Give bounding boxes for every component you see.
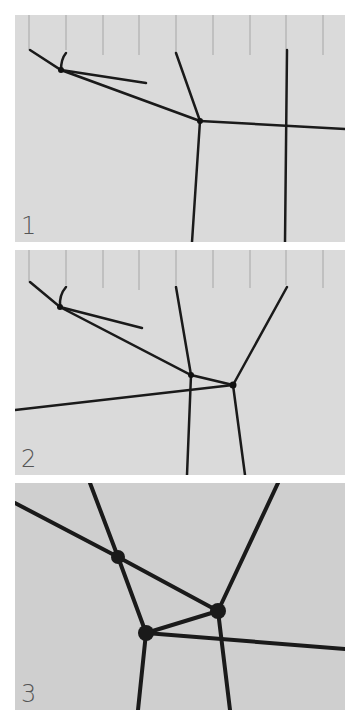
step-2-illustration	[15, 250, 345, 475]
step-number: 2	[21, 447, 36, 471]
step-2-panel: 2	[15, 250, 345, 475]
step-1-panel: 1	[15, 15, 345, 242]
step-3-illustration	[15, 483, 345, 710]
step-1-illustration	[15, 15, 345, 242]
step-number: 3	[21, 682, 36, 706]
step-3-panel: 3	[15, 483, 345, 710]
step-number: 1	[21, 214, 36, 238]
